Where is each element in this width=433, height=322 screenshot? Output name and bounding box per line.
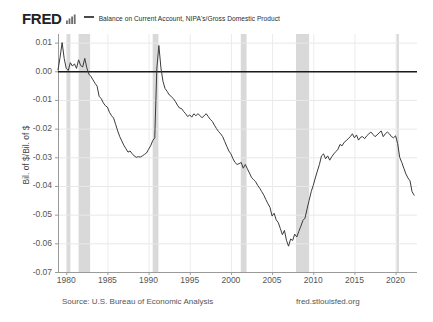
y-tick-label: -0.03 — [16, 153, 52, 162]
y-tick-label: -0.06 — [16, 239, 52, 248]
x-tick-label: 1985 — [87, 276, 127, 285]
recession-bands — [66, 34, 399, 272]
gridlines — [58, 34, 417, 273]
source-note: Source: U.S. Bureau of Economic Analysis — [62, 297, 213, 306]
x-tick-label: 2020 — [376, 276, 416, 285]
fred-url-note: fred.stlouisfed.org — [296, 297, 360, 306]
x-tick-label: 2005 — [252, 276, 292, 285]
plot-area — [0, 0, 433, 322]
tick-marks — [55, 43, 396, 275]
series-line-current-account-gdp — [58, 43, 414, 247]
y-tick-label: -0.07 — [16, 268, 52, 277]
axis-frame — [58, 34, 417, 273]
x-tick-label: 2015 — [334, 276, 374, 285]
y-tick-label: -0.04 — [16, 181, 52, 190]
x-tick-label: 1995 — [170, 276, 210, 285]
y-tick-label: -0.01 — [16, 95, 52, 104]
fred-chart-figure: FRED Balance on Current Account, NIPA's/… — [0, 0, 433, 322]
x-tick-label: 1980 — [46, 276, 86, 285]
x-tick-label: 2000 — [211, 276, 251, 285]
x-tick-label: 1990 — [129, 276, 169, 285]
y-tick-label: 0.01 — [16, 38, 52, 47]
y-tick-label: -0.02 — [16, 124, 52, 133]
x-tick-label: 2010 — [293, 276, 333, 285]
y-tick-label: 0.00 — [16, 67, 52, 76]
y-tick-label: -0.05 — [16, 210, 52, 219]
